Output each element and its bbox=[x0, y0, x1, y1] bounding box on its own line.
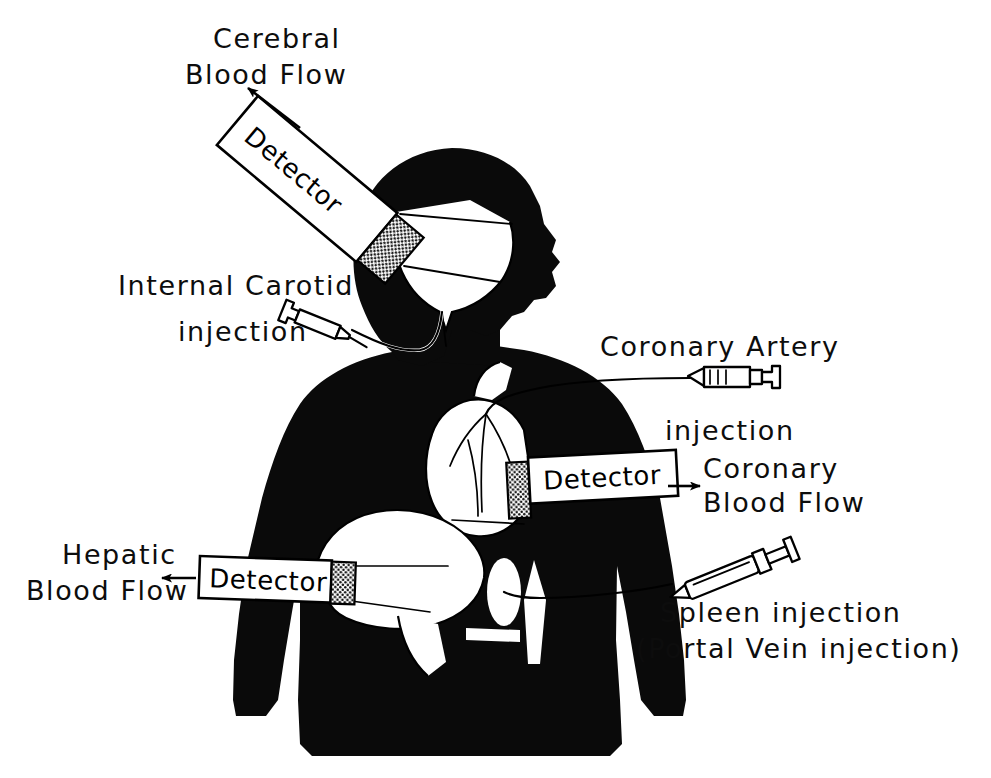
internal-carotid-line2: injection bbox=[178, 316, 308, 347]
detector-hepatic-collimator bbox=[330, 562, 355, 605]
detector-hepatic-label: Detector bbox=[209, 563, 328, 597]
spleen-injection-line1: Spleen injection bbox=[660, 597, 902, 628]
coronary-artery-line2: injection bbox=[665, 415, 795, 446]
diagram-canvas: Detector Detector Detector bbox=[0, 0, 991, 778]
hepatic-blood-flow-line2: Blood Flow bbox=[26, 575, 188, 606]
syringe-barrel bbox=[704, 367, 750, 387]
cerebral-blood-flow-line1: Cerebral bbox=[213, 23, 341, 54]
blood-flow-diagram: Detector Detector Detector bbox=[0, 0, 991, 778]
coronary-blood-flow-line1: Coronary bbox=[703, 453, 839, 484]
spleen-injection-line2: (Portal Vein injection) bbox=[636, 633, 962, 664]
splenic-vein bbox=[466, 628, 520, 642]
coronary-artery-line1: Coronary Artery bbox=[600, 331, 840, 362]
hepatic-blood-flow-line1: Hepatic bbox=[62, 539, 177, 570]
detector-hepatic[interactable]: Detector bbox=[198, 556, 355, 604]
internal-carotid-line1: Internal Carotid bbox=[118, 270, 354, 301]
cerebral-blood-flow-line2: Blood Flow bbox=[185, 59, 347, 90]
syringe-collar bbox=[750, 370, 762, 384]
coronary-blood-flow-line2: Blood Flow bbox=[703, 487, 865, 518]
detector-coronary-label: Detector bbox=[542, 460, 662, 496]
